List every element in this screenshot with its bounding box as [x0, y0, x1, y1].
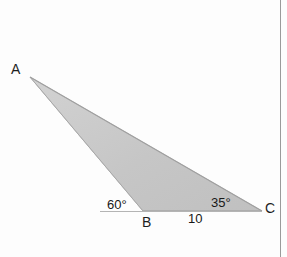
page-edge-line	[280, 0, 281, 257]
angle-label-b: 60°	[107, 198, 127, 211]
diagram-canvas: A B C 60° 35° 10	[0, 0, 287, 257]
vertex-label-c: C	[265, 201, 275, 215]
vertex-label-b: B	[142, 215, 151, 229]
vertex-label-a: A	[11, 62, 20, 76]
side-length-label-bc: 10	[188, 212, 202, 225]
angle-label-c: 35°	[211, 196, 231, 209]
